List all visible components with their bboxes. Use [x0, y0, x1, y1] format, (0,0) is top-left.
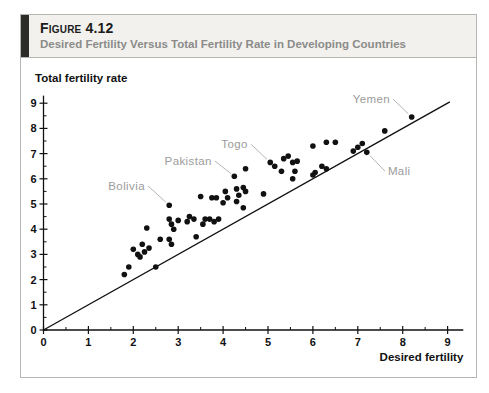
scatter-point — [200, 221, 206, 227]
country-leader-line — [148, 186, 166, 202]
chart-region: 01234567890123456789Total fertility rate… — [21, 58, 476, 377]
y-tick-label: 6 — [30, 173, 36, 185]
country-leader-line — [215, 161, 231, 174]
scatter-point — [243, 166, 249, 172]
figure-number: Figure 4.12 — [40, 20, 476, 37]
y-tick-label: 5 — [30, 198, 36, 210]
country-leader-line — [251, 144, 267, 159]
scatter-point — [364, 150, 370, 156]
scatter-point — [359, 141, 365, 147]
y-axis-title: Total fertility rate — [35, 72, 127, 84]
scatter-point — [261, 191, 267, 197]
x-tick-label: 9 — [445, 336, 451, 348]
y-tick-label: 4 — [30, 223, 37, 235]
y-tick-label: 0 — [30, 324, 36, 336]
x-tick-label: 7 — [355, 336, 361, 348]
x-tick-label: 2 — [130, 336, 136, 348]
y-tick-label: 9 — [30, 97, 36, 109]
scatter-point — [146, 245, 152, 251]
scatter-point — [166, 202, 172, 208]
scatter-point — [333, 139, 339, 145]
scatter-point — [351, 148, 357, 154]
figure-header: Figure 4.12 Desired Fertility Versus Tot… — [21, 15, 476, 58]
scatter-point — [241, 205, 247, 211]
scatter-point — [225, 195, 231, 201]
scatter-point — [171, 226, 177, 232]
accent-bar — [21, 15, 29, 57]
scatter-point — [122, 272, 128, 278]
scatter-point — [223, 189, 229, 195]
x-tick-label: 6 — [310, 336, 316, 348]
scatter-point — [144, 225, 150, 231]
scatter-point — [191, 216, 197, 222]
y-tick-label: 8 — [30, 122, 36, 134]
x-axis-title: Desired fertility — [380, 351, 464, 363]
x-tick-label: 8 — [400, 336, 406, 348]
x-tick-label: 5 — [265, 336, 271, 348]
country-label: Bolivia — [108, 180, 145, 192]
scatter-point — [157, 236, 163, 242]
y-tick-label: 2 — [30, 274, 36, 286]
country-label: Togo — [221, 138, 248, 150]
country-leader-line — [393, 99, 408, 114]
scatter-point — [272, 163, 278, 169]
y-tick-label: 3 — [30, 248, 36, 260]
scatter-point — [169, 242, 175, 248]
scatter-point — [267, 160, 273, 166]
scatter-point — [175, 218, 181, 224]
scatter-point — [290, 176, 296, 182]
scatter-point — [153, 264, 159, 270]
scatter-point — [184, 219, 190, 225]
scatter-point — [294, 158, 300, 164]
scatter-point — [166, 236, 172, 242]
y-tick-label: 7 — [30, 148, 36, 160]
scatter-point — [220, 200, 226, 206]
scatter-point — [310, 143, 316, 149]
scatter-point — [139, 242, 145, 248]
scatter-point — [312, 170, 318, 176]
scatter-point — [214, 195, 220, 201]
scatter-point — [236, 192, 242, 198]
country-label: Yemen — [353, 93, 390, 105]
scatter-point — [382, 128, 388, 134]
x-tick-label: 3 — [175, 336, 181, 348]
scatter-point — [193, 234, 199, 240]
country-leader-line — [370, 156, 385, 171]
scatter-point — [234, 186, 240, 192]
country-label: Pakistan — [165, 155, 212, 167]
scatter-point — [292, 168, 298, 174]
x-tick-label: 0 — [40, 336, 46, 348]
figure-title: Desired Fertility Versus Total Fertility… — [40, 37, 476, 52]
scatter-point — [409, 114, 415, 120]
scatter-point — [324, 139, 330, 145]
scatter-point — [243, 189, 249, 195]
scatter-point — [131, 247, 137, 253]
figure-box: Figure 4.12 Desired Fertility Versus Tot… — [20, 14, 477, 378]
scatter-point — [355, 145, 361, 151]
scatter-point — [216, 216, 222, 222]
scatter-point — [142, 249, 148, 255]
country-label: Mali — [388, 165, 411, 177]
scatter-point — [232, 173, 238, 179]
scatter-point — [137, 254, 143, 260]
scatter-point — [198, 194, 204, 200]
scatter-point — [324, 166, 330, 172]
reference-line — [44, 102, 450, 330]
scatter-point — [234, 199, 240, 205]
fertility-chart: 01234567890123456789Total fertility rate… — [21, 58, 476, 377]
x-tick-label: 4 — [220, 336, 227, 348]
scatter-point — [126, 264, 132, 270]
x-tick-label: 1 — [85, 336, 91, 348]
y-tick-label: 1 — [30, 299, 36, 311]
scatter-point — [166, 216, 172, 222]
scatter-point — [169, 221, 175, 227]
scatter-point — [279, 168, 285, 174]
scatter-point — [285, 153, 291, 159]
